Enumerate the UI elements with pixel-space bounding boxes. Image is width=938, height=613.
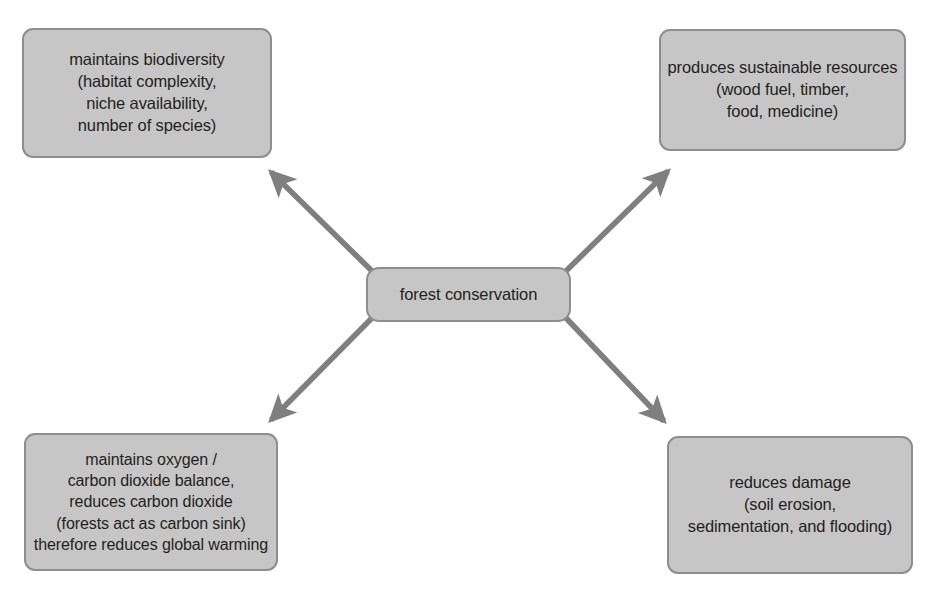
arrow-to-resources [566, 171, 668, 271]
node-maintains-biodiversity[interactable]: maintains biodiversity (habitat complexi… [22, 28, 272, 158]
arrow-to-biodiversity [271, 172, 372, 271]
node-label-damage: reduces damage (soil erosion, sedimentat… [688, 472, 893, 537]
arrow-to-damage [566, 318, 664, 421]
arrow-to-oxygen [271, 318, 372, 420]
node-forest-conservation[interactable]: forest conservation [366, 267, 571, 322]
node-label-center: forest conservation [400, 284, 538, 306]
node-label-biodiversity: maintains biodiversity (habitat complexi… [69, 49, 225, 136]
node-label-resources: produces sustainable resources (wood fue… [668, 57, 898, 122]
node-maintains-oxygen-carbon-balance[interactable]: maintains oxygen / carbon dioxide balanc… [24, 433, 278, 571]
node-produces-sustainable-resources[interactable]: produces sustainable resources (wood fue… [659, 29, 906, 151]
node-reduces-damage[interactable]: reduces damage (soil erosion, sedimentat… [667, 436, 913, 574]
node-label-oxygen: maintains oxygen / carbon dioxide balanc… [34, 449, 268, 555]
diagram-canvas: maintains biodiversity (habitat complexi… [0, 0, 938, 613]
